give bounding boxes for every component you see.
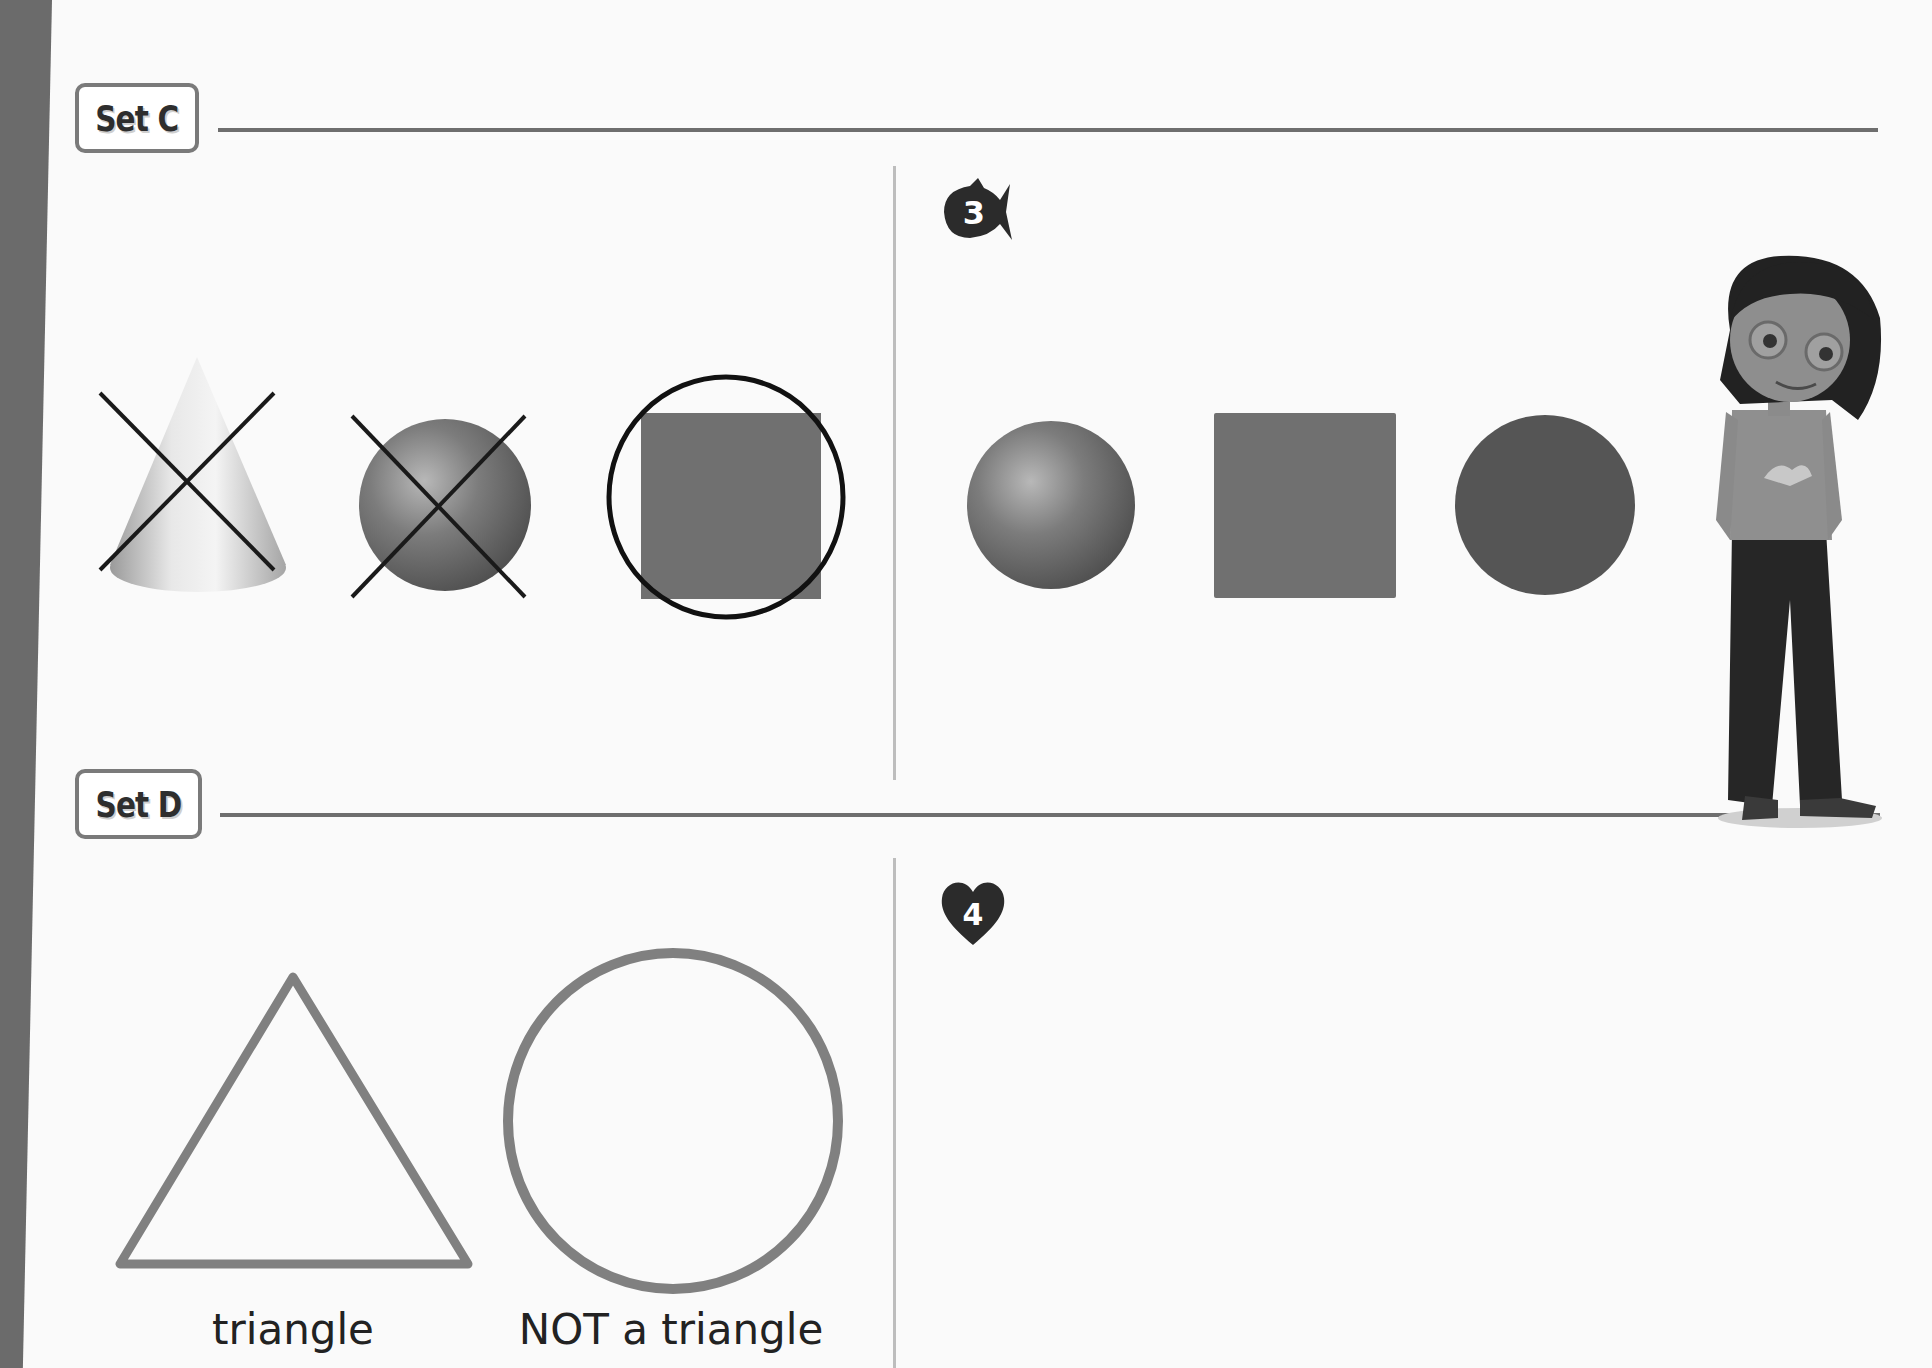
shapes-layer: 3 4 <box>0 0 1932 1368</box>
worksheet-page: Set C Set D <box>0 0 1932 1368</box>
heart-icon: 4 <box>942 883 1004 945</box>
circle-shape <box>1455 415 1635 595</box>
circle-outline-shape <box>508 953 838 1289</box>
sphere-shape <box>967 421 1135 589</box>
svg-text:4: 4 <box>963 897 984 932</box>
triangle-caption: triangle <box>212 1305 374 1354</box>
fish-icon: 3 <box>944 178 1012 240</box>
svg-text:3: 3 <box>963 194 985 232</box>
square-shape <box>641 413 821 599</box>
not-triangle-caption: NOT a triangle <box>519 1305 824 1354</box>
triangle-shape <box>120 977 468 1264</box>
character-girl-illustration <box>1716 256 1882 828</box>
square-shape <box>1214 413 1396 598</box>
